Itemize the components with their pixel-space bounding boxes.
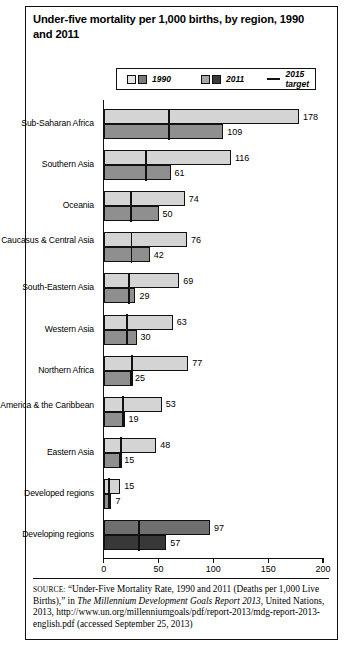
value-label-2011-developed-regions: 7: [115, 496, 120, 506]
value-label-1990-oceania: 74: [189, 194, 199, 204]
source-title-italic: The Millennium Development Goals Report …: [77, 596, 261, 606]
target-line-caucasus-central-asia: [131, 232, 133, 263]
bar-1990-caucasus-central-asia: [104, 232, 187, 247]
source-note: SOURCE: “Under-Five Mortality Rate, 1990…: [33, 584, 325, 630]
bar-1990-eastern-asia: [104, 438, 157, 453]
bar-1990-developed-regions: [104, 479, 120, 494]
bar-2011-south-eastern-asia: [104, 288, 136, 303]
x-axis-tick: [213, 558, 214, 563]
value-label-1990-developing-regions: 97: [214, 523, 224, 533]
target-line-latin-america-the-caribbean: [122, 396, 124, 427]
bar-1990-latin-america-the-caribbean: [104, 397, 162, 412]
x-axis-tick-label: 50: [144, 564, 174, 574]
value-label-2011-sub-saharan-africa: 109: [227, 127, 242, 137]
category-label-western-asia: Western Asia: [0, 324, 94, 335]
bar-2011-western-asia: [104, 330, 137, 345]
value-label-2011-developing-regions: 57: [170, 538, 180, 548]
target-line-northern-africa: [131, 355, 133, 386]
bar-2011-developing-regions: [104, 535, 167, 550]
category-label-southern-asia: Southern Asia: [0, 159, 94, 170]
category-label-northern-africa: Northern Africa: [0, 365, 94, 376]
target-line-southern-asia: [145, 150, 147, 181]
value-label-2011-latin-america-the-caribbean: 19: [129, 414, 139, 424]
value-label-1990-caucasus-central-asia: 76: [191, 235, 201, 245]
value-label-1990-eastern-asia: 48: [160, 440, 170, 450]
category-label-latin-america-the-caribbean: Latin America & the Caribbean: [0, 400, 94, 411]
value-label-2011-eastern-asia: 15: [124, 455, 134, 465]
bar-1990-oceania: [104, 191, 185, 206]
value-label-2011-oceania: 50: [163, 209, 173, 219]
value-label-1990-south-eastern-asia: 69: [183, 276, 193, 286]
category-label-south-eastern-asia: South-Eastern Asia: [0, 282, 94, 293]
value-label-1990-southern-asia: 116: [235, 153, 249, 163]
source-divider: [33, 578, 329, 579]
bar-2011-southern-asia: [104, 165, 171, 180]
value-label-2011-western-asia: 30: [141, 332, 151, 342]
x-axis-tick: [268, 558, 269, 563]
bar-2011-eastern-asia: [104, 453, 120, 468]
value-label-1990-northern-africa: 77: [192, 358, 202, 368]
category-label-eastern-asia: Eastern Asia: [0, 447, 94, 458]
bar-1990-northern-africa: [104, 356, 188, 371]
bar-1990-southern-asia: [104, 150, 231, 165]
target-line-developing-regions: [138, 520, 140, 551]
figure-root: Under-five mortality per 1,000 births, b…: [0, 0, 352, 661]
target-line-oceania: [130, 191, 132, 222]
bar-1990-western-asia: [104, 315, 173, 330]
category-label-developed-regions: Developed regions: [0, 488, 94, 499]
bar-2011-sub-saharan-africa: [104, 124, 224, 139]
value-label-2011-south-eastern-asia: 29: [139, 291, 149, 301]
value-label-1990-latin-america-the-caribbean: 53: [166, 399, 176, 409]
target-line-sub-saharan-africa: [168, 109, 170, 140]
value-label-2011-southern-asia: 61: [175, 168, 185, 178]
x-axis-tick: [103, 558, 104, 563]
bar-2011-caucasus-central-asia: [104, 247, 150, 262]
category-label-caucasus-central-asia: Caucasus & Central Asia: [0, 235, 94, 246]
x-axis-tick: [158, 558, 159, 563]
target-line-developed-regions: [108, 478, 110, 509]
x-axis-tick-label: 200: [308, 564, 338, 574]
category-label-developing-regions: Developing regions: [0, 529, 94, 540]
target-line-south-eastern-asia: [128, 273, 130, 304]
bar-2011-northern-africa: [104, 371, 131, 386]
target-line-western-asia: [126, 314, 128, 345]
value-label-1990-sub-saharan-africa: 178: [303, 112, 318, 122]
plot-area: 050100150200Sub-Saharan Africa178109Sout…: [0, 0, 352, 661]
value-label-2011-caucasus-central-asia: 42: [154, 250, 164, 260]
bar-1990-developing-regions: [104, 520, 210, 535]
value-label-1990-western-asia: 63: [177, 317, 187, 327]
x-axis-tick: [322, 558, 323, 563]
x-axis-tick-label: 150: [253, 564, 283, 574]
bar-1990-south-eastern-asia: [104, 273, 180, 288]
category-label-oceania: Oceania: [0, 200, 94, 211]
x-axis-tick-label: 100: [198, 564, 228, 574]
value-label-1990-developed-regions: 15: [124, 481, 134, 491]
target-line-eastern-asia: [120, 437, 122, 468]
source-label: SOURCE:: [33, 585, 66, 594]
bar-1990-sub-saharan-africa: [104, 109, 299, 124]
category-label-sub-saharan-africa: Sub-Saharan Africa: [0, 118, 94, 129]
x-axis-tick-label: 0: [89, 564, 119, 574]
value-label-2011-northern-africa: 25: [135, 373, 145, 383]
